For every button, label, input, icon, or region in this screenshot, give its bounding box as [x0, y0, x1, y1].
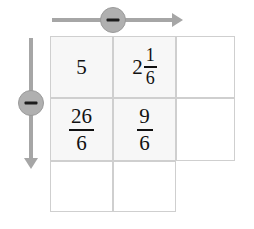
diagram-canvas: 5 2 1 6 26 6 9	[0, 0, 254, 229]
grid-cell[interactable]	[113, 161, 176, 212]
mixed-number: 2 1 6	[132, 46, 157, 87]
grid-cell[interactable]: 5	[50, 36, 113, 98]
grid-cell[interactable]: 26 6	[50, 98, 113, 161]
grid-cell[interactable]	[176, 36, 235, 98]
cell-value: 5	[76, 57, 87, 78]
mixed-whole-part: 2	[132, 57, 143, 78]
fraction-numerator: 1	[144, 46, 157, 65]
grid-cell[interactable]	[50, 161, 113, 212]
grid-cell[interactable]: 2 1 6	[113, 36, 176, 98]
fraction: 9 6	[137, 105, 153, 153]
fraction-numerator: 9	[137, 105, 152, 127]
fraction-denominator: 6	[144, 69, 157, 88]
vertical-arrow-head-icon	[24, 158, 38, 169]
fraction: 26 6	[69, 105, 94, 153]
grid-cell[interactable]	[176, 98, 235, 161]
fraction: 1 6	[144, 46, 157, 87]
grid-cell	[176, 161, 235, 212]
horizontal-minus-button[interactable]	[100, 7, 126, 33]
fraction-grid: 5 2 1 6 26 6 9	[50, 36, 235, 212]
fraction-numerator: 26	[69, 105, 94, 127]
vertical-minus-button[interactable]	[18, 90, 44, 116]
horizontal-arrow-head-icon	[172, 13, 183, 27]
fraction-denominator: 6	[137, 132, 152, 154]
fraction-denominator: 6	[74, 132, 89, 154]
grid-cell[interactable]: 9 6	[113, 98, 176, 161]
